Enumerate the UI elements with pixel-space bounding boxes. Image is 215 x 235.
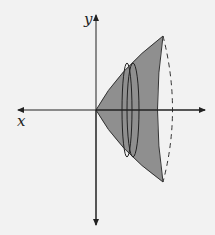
solid-of-revolution-figure [0,0,215,235]
shaded-region [96,36,163,182]
dashed-ellipse-edge [163,36,173,182]
diagram-canvas: y x [0,0,215,235]
x-axis-label: x [17,112,25,130]
y-axis-label: y [84,10,92,28]
